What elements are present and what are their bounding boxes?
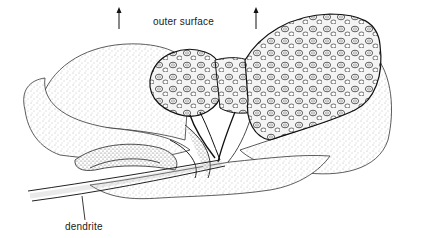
outer-surface-arrow-right [254,7,259,29]
illustration [0,0,426,238]
dendrite-pointer-line [82,196,85,220]
outer-surface-label: outer surface [153,16,214,27]
diagram-canvas: outer surface dendrite [0,0,426,238]
outer-surface-arrow-left [117,7,122,29]
dendrite-label: dendrite [65,221,103,232]
